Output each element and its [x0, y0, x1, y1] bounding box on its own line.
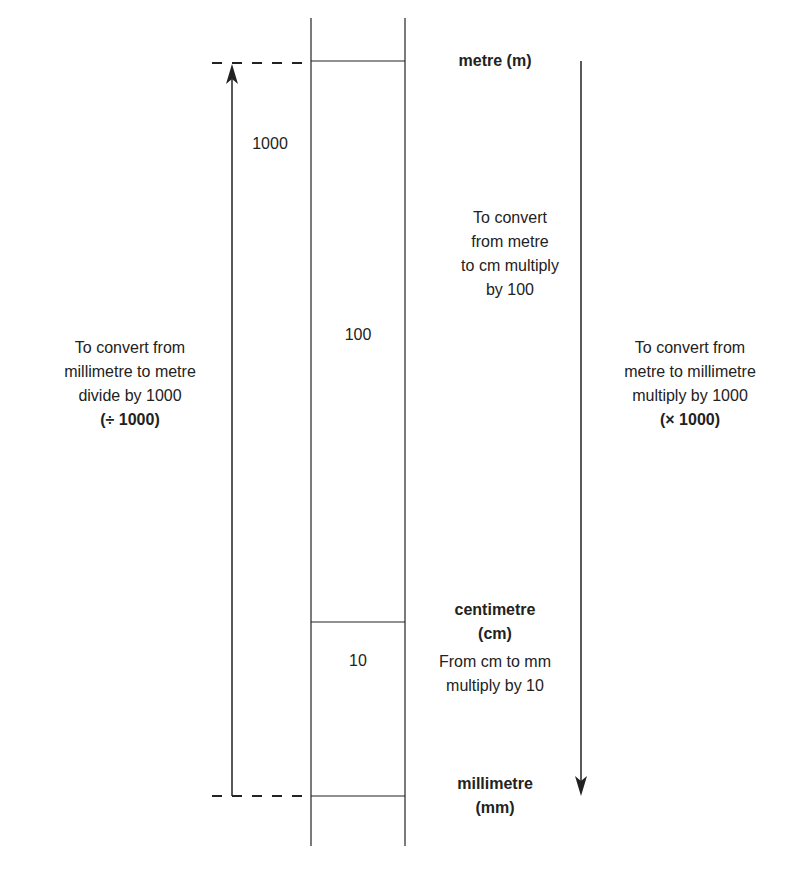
value-1000: 1000	[240, 134, 300, 154]
millimetre-label-line1: millimetre	[405, 774, 585, 794]
metre-label: metre (m)	[405, 51, 585, 71]
note-line: multiply by 1000	[590, 384, 790, 408]
note-line: millimetre to metre	[10, 360, 250, 384]
metre-to-cm-note: To convert from metre to cm multiply by …	[420, 206, 600, 302]
note-line: by 100	[420, 278, 600, 302]
centimetre-label: centimetre (cm)	[405, 600, 585, 644]
diagram-lines	[0, 0, 792, 873]
mm-to-metre-note: To convert from millimetre to metre divi…	[10, 336, 250, 432]
value-100: 100	[328, 325, 388, 345]
note-line: To convert	[420, 206, 600, 230]
metre-to-mm-note: To convert from metre to millimetre mult…	[590, 336, 790, 432]
millimetre-label: millimetre (mm)	[405, 774, 585, 818]
multiply-operation: (× 1000)	[590, 408, 790, 432]
note-line: multiply by 10	[405, 674, 585, 698]
note-line: metre to millimetre	[590, 360, 790, 384]
cm-to-mm-note: From cm to mm multiply by 10	[405, 650, 585, 698]
centimetre-label-line1: centimetre	[405, 600, 585, 620]
value-10: 10	[328, 651, 388, 671]
centimetre-label-line2: (cm)	[405, 624, 585, 644]
millimetre-label-line2: (mm)	[405, 798, 585, 818]
note-line: To convert from	[10, 336, 250, 360]
note-line: To convert from	[590, 336, 790, 360]
note-line: from metre	[420, 230, 600, 254]
note-line: From cm to mm	[405, 650, 585, 674]
divide-operation: (÷ 1000)	[10, 408, 250, 432]
note-line: to cm multiply	[420, 254, 600, 278]
note-line: divide by 1000	[10, 384, 250, 408]
